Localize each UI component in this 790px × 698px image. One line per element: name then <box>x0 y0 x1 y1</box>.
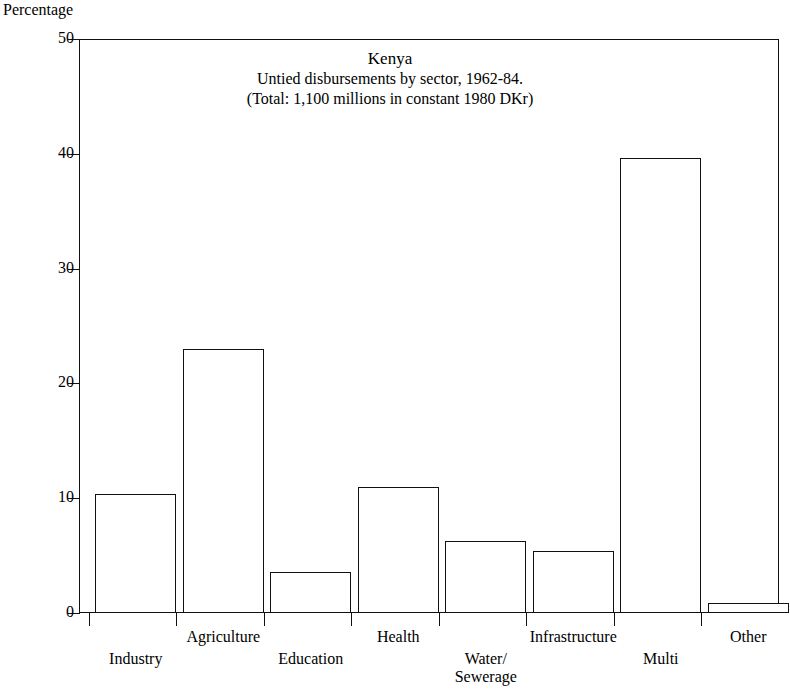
x-axis-tick <box>701 613 702 626</box>
x-axis-tick-label: Health <box>323 628 473 646</box>
y-axis-tick-label: 30 <box>14 260 74 276</box>
bar <box>358 487 439 613</box>
x-axis-tick-label: Water/ Sewerage <box>411 650 561 686</box>
chart-subtitle-line-2: (Total: 1,100 millions in constant 1980 … <box>190 89 590 109</box>
y-axis-tick-label: 10 <box>14 489 74 505</box>
bar <box>708 603 789 613</box>
bar <box>270 572 351 613</box>
x-axis-tick <box>264 613 265 626</box>
y-axis-tick-label: 0 <box>14 604 74 620</box>
y-axis-label: Percentage <box>3 1 73 19</box>
bar <box>95 494 176 613</box>
x-axis-tick-label: Agriculture <box>148 628 298 646</box>
x-axis-tick <box>351 613 352 626</box>
y-axis-tick-label: 20 <box>14 374 74 390</box>
bars-group <box>79 39 779 613</box>
x-axis-tick <box>89 613 90 626</box>
chart-title: Kenya <box>190 48 590 69</box>
bar <box>620 158 701 613</box>
x-axis-tick <box>526 613 527 626</box>
x-axis-tick-label: Education <box>236 650 386 668</box>
x-axis-tick-label: Infrastructure <box>498 628 648 646</box>
x-axis-tick-label: Multi <box>586 650 736 668</box>
x-axis-tick <box>439 613 440 626</box>
title-block: Kenya Untied disbursements by sector, 19… <box>190 48 590 109</box>
x-axis-tick <box>176 613 177 626</box>
y-axis-tick-label: 50 <box>14 30 74 46</box>
x-axis-tick <box>614 613 615 626</box>
y-axis-tick-label: 40 <box>14 145 74 161</box>
bar <box>445 541 526 613</box>
x-axis-tick-label: Industry <box>61 650 211 668</box>
chart-subtitle-line-1: Untied disbursements by sector, 1962-84. <box>190 69 590 89</box>
x-axis-tick-label: Other <box>673 628 790 646</box>
bar <box>533 551 614 613</box>
bar <box>183 349 264 613</box>
bar-chart-figure: Percentage 01020304050 IndustryAgricultu… <box>0 0 790 698</box>
